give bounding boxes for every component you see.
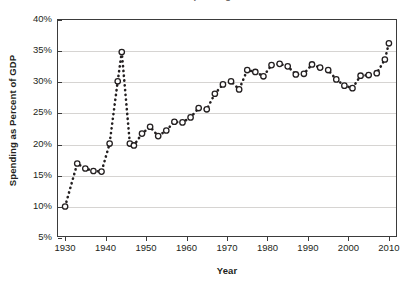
y-axis-tick-label: 15% bbox=[18, 170, 52, 180]
x-axis-title: Year bbox=[57, 265, 397, 276]
data-point bbox=[350, 85, 355, 90]
x-axis-tick-label: 1960 bbox=[167, 243, 207, 253]
data-point bbox=[212, 91, 217, 96]
x-axis-tick-label: 2010 bbox=[369, 243, 409, 253]
series-line bbox=[65, 43, 389, 206]
data-point bbox=[309, 62, 314, 67]
y-axis-title-text: Spending as Percent of GDP bbox=[8, 54, 19, 185]
data-point bbox=[196, 105, 201, 110]
data-point bbox=[366, 72, 371, 77]
y-axis-tick-label: 20% bbox=[18, 139, 52, 149]
chart-figure: Government Spending as a Percent of GDP … bbox=[0, 0, 414, 290]
x-axis-tick-label: 1980 bbox=[247, 243, 287, 253]
data-point bbox=[317, 65, 322, 70]
data-point bbox=[358, 73, 363, 78]
data-point bbox=[285, 64, 290, 69]
x-axis-tick bbox=[267, 237, 268, 241]
data-point bbox=[386, 41, 391, 46]
data-point bbox=[119, 49, 124, 54]
x-axis-tick bbox=[227, 237, 228, 241]
data-point bbox=[236, 87, 241, 92]
data-point bbox=[325, 67, 330, 72]
x-axis-tick-label: 1990 bbox=[288, 243, 328, 253]
x-axis-tick bbox=[389, 237, 390, 241]
data-point bbox=[164, 128, 169, 133]
data-point bbox=[334, 77, 339, 82]
x-axis-tick-label: 2000 bbox=[328, 243, 368, 253]
data-point bbox=[139, 131, 144, 136]
data-point bbox=[172, 119, 177, 124]
data-point bbox=[245, 67, 250, 72]
x-axis-tick bbox=[65, 237, 66, 241]
data-point bbox=[62, 204, 67, 209]
data-point bbox=[147, 124, 152, 129]
data-point bbox=[382, 57, 387, 62]
x-axis-tick-label: 1950 bbox=[126, 243, 166, 253]
data-point bbox=[342, 83, 347, 88]
data-point bbox=[301, 71, 306, 76]
x-axis-tick bbox=[187, 237, 188, 241]
y-axis-tick-label: 5% bbox=[18, 232, 52, 242]
x-axis-tick-label: 1930 bbox=[45, 243, 85, 253]
data-point bbox=[293, 72, 298, 77]
data-point bbox=[220, 82, 225, 87]
data-point bbox=[115, 79, 120, 84]
data-point bbox=[83, 166, 88, 171]
data-point bbox=[75, 161, 80, 166]
data-point bbox=[107, 141, 112, 146]
data-point bbox=[277, 61, 282, 66]
data-point bbox=[155, 133, 160, 138]
data-point bbox=[99, 169, 104, 174]
y-axis-tick bbox=[58, 238, 62, 239]
chart-title: Government Spending as a Percent of GDP bbox=[57, 0, 397, 1]
x-axis-tick bbox=[106, 237, 107, 241]
y-axis-tick-label: 25% bbox=[18, 108, 52, 118]
x-axis-tick bbox=[146, 237, 147, 241]
data-point bbox=[180, 120, 185, 125]
data-point bbox=[228, 79, 233, 84]
x-axis-tick bbox=[348, 237, 349, 241]
x-axis-tick-label: 1970 bbox=[207, 243, 247, 253]
data-point bbox=[131, 143, 136, 148]
data-point bbox=[269, 62, 274, 67]
x-axis-tick-label: 1940 bbox=[86, 243, 126, 253]
data-point bbox=[253, 69, 258, 74]
data-series-spending bbox=[57, 19, 397, 237]
y-axis-tick-label: 40% bbox=[18, 14, 52, 24]
data-point bbox=[204, 107, 209, 112]
x-axis-tick bbox=[308, 237, 309, 241]
data-point bbox=[91, 168, 96, 173]
data-point bbox=[261, 74, 266, 79]
y-axis-tick-label: 30% bbox=[18, 77, 52, 87]
y-axis-tick-label: 10% bbox=[18, 201, 52, 211]
y-axis-tick-label: 35% bbox=[18, 45, 52, 55]
data-point bbox=[374, 70, 379, 75]
data-point bbox=[188, 115, 193, 120]
